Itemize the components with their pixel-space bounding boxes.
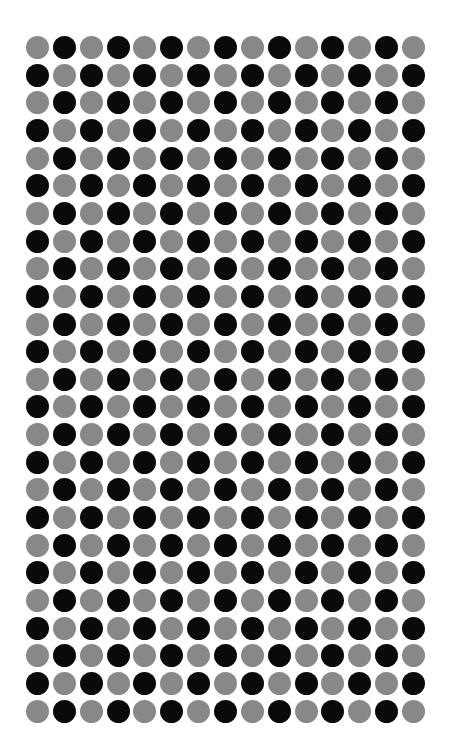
gray-dot (53, 119, 76, 142)
black-dot (214, 589, 237, 612)
black-dot (321, 423, 344, 446)
gray-dot (133, 423, 156, 446)
black-dot (402, 230, 425, 253)
gray-dot (321, 64, 344, 87)
gray-dot (133, 644, 156, 667)
black-dot (107, 91, 130, 114)
gray-dot (26, 478, 49, 501)
black-dot (268, 91, 291, 114)
gray-dot (241, 534, 264, 557)
gray-dot (133, 534, 156, 557)
gray-dot (80, 589, 103, 612)
gray-dot (402, 700, 425, 723)
gray-dot (26, 589, 49, 612)
gray-dot (80, 147, 103, 170)
gray-dot (26, 147, 49, 170)
gray-dot (402, 313, 425, 336)
gray-dot (107, 506, 130, 529)
gray-dot (295, 534, 318, 557)
gray-dot (133, 589, 156, 612)
gray-dot (375, 672, 398, 695)
gray-dot (321, 672, 344, 695)
gray-dot (26, 368, 49, 391)
gray-dot (214, 672, 237, 695)
black-dot (375, 36, 398, 59)
gray-dot (402, 147, 425, 170)
black-dot (160, 202, 183, 225)
black-dot (375, 534, 398, 557)
gray-dot (375, 506, 398, 529)
black-dot (160, 36, 183, 59)
gray-dot (268, 285, 291, 308)
black-dot (187, 119, 210, 142)
gray-dot (321, 561, 344, 584)
black-dot (241, 617, 264, 640)
gray-dot (321, 174, 344, 197)
gray-dot (107, 561, 130, 584)
black-dot (321, 700, 344, 723)
black-dot (26, 230, 49, 253)
black-dot (133, 672, 156, 695)
gray-dot (375, 174, 398, 197)
gray-dot (214, 506, 237, 529)
black-dot (321, 257, 344, 280)
black-dot (26, 174, 49, 197)
black-dot (187, 174, 210, 197)
black-dot (321, 313, 344, 336)
gray-dot (268, 506, 291, 529)
gray-dot (133, 147, 156, 170)
gray-dot (53, 451, 76, 474)
gray-dot (53, 340, 76, 363)
gray-dot (321, 617, 344, 640)
black-dot (348, 561, 371, 584)
black-dot (214, 313, 237, 336)
black-dot (375, 589, 398, 612)
black-dot (133, 285, 156, 308)
gray-dot (133, 36, 156, 59)
black-dot (187, 451, 210, 474)
gray-dot (268, 561, 291, 584)
gray-dot (241, 91, 264, 114)
gray-dot (53, 285, 76, 308)
black-dot (321, 478, 344, 501)
gray-dot (402, 534, 425, 557)
gray-dot (348, 202, 371, 225)
black-dot (348, 64, 371, 87)
gray-dot (348, 368, 371, 391)
gray-dot (187, 700, 210, 723)
gray-dot (348, 700, 371, 723)
gray-dot (321, 285, 344, 308)
black-dot (402, 617, 425, 640)
gray-dot (402, 91, 425, 114)
gray-dot (53, 230, 76, 253)
gray-dot (348, 313, 371, 336)
black-dot (295, 285, 318, 308)
black-dot (53, 534, 76, 557)
black-dot (187, 561, 210, 584)
black-dot (133, 451, 156, 474)
gray-dot (402, 644, 425, 667)
black-dot (241, 230, 264, 253)
gray-dot (107, 672, 130, 695)
black-dot (160, 534, 183, 557)
gray-dot (402, 368, 425, 391)
gray-dot (53, 617, 76, 640)
gray-dot (321, 230, 344, 253)
black-dot (53, 644, 76, 667)
gray-dot (53, 561, 76, 584)
gray-dot (295, 313, 318, 336)
gray-dot (268, 340, 291, 363)
gray-dot (187, 368, 210, 391)
black-dot (26, 285, 49, 308)
black-dot (241, 672, 264, 695)
black-dot (321, 147, 344, 170)
black-dot (214, 644, 237, 667)
black-dot (80, 617, 103, 640)
gray-dot (160, 672, 183, 695)
black-dot (268, 36, 291, 59)
gray-dot (402, 257, 425, 280)
black-dot (321, 202, 344, 225)
gray-dot (107, 64, 130, 87)
gray-dot (80, 478, 103, 501)
black-dot (348, 285, 371, 308)
